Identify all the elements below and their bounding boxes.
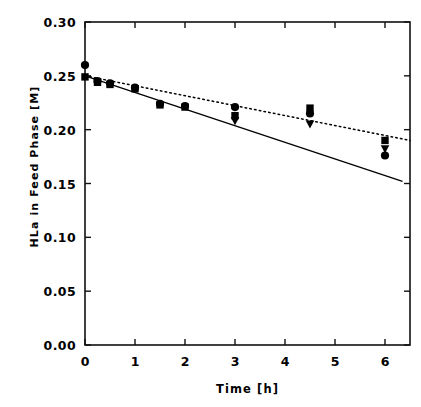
data-point-square	[381, 137, 388, 144]
y-tick-label: 0.15	[44, 176, 76, 191]
y-tick-label: 0.00	[44, 338, 76, 353]
data-point-circle	[231, 103, 239, 111]
y-tick-label: 0.25	[44, 68, 76, 83]
y-tick-label: 0.05	[44, 284, 76, 299]
y-tick-label: 0.20	[44, 122, 76, 137]
circle-series-group	[81, 61, 389, 160]
x-tick-label: 6	[381, 354, 390, 369]
plot-frame	[85, 22, 410, 345]
data-point-triangle	[381, 145, 390, 153]
data-point-square	[106, 81, 113, 88]
x-tick-label: 0	[81, 354, 90, 369]
y-tick-label: 0.30	[44, 15, 76, 30]
data-point-square	[181, 103, 188, 110]
chart-figure: HLa in Feed Phase [M] Time [h] 0.000.050…	[0, 0, 421, 407]
data-point-square	[131, 85, 138, 92]
x-tick-label: 5	[331, 354, 340, 369]
x-tick-label: 2	[181, 354, 190, 369]
triangle-series-group	[231, 117, 390, 153]
data-point-square	[156, 101, 163, 108]
data-point-circle	[81, 61, 89, 69]
y-tick-label: 0.10	[44, 230, 76, 245]
x-tick-label: 4	[281, 354, 290, 369]
data-point-square	[306, 104, 313, 111]
x-tick-label: 3	[231, 354, 240, 369]
data-point-square	[94, 79, 101, 86]
data-point-triangle	[306, 121, 315, 129]
data-point-square	[81, 73, 88, 80]
x-tick-label: 1	[131, 354, 140, 369]
y-axis-label: HLa in Feed Phase [M]	[28, 47, 41, 287]
x-axis-label: Time [h]	[85, 382, 410, 396]
